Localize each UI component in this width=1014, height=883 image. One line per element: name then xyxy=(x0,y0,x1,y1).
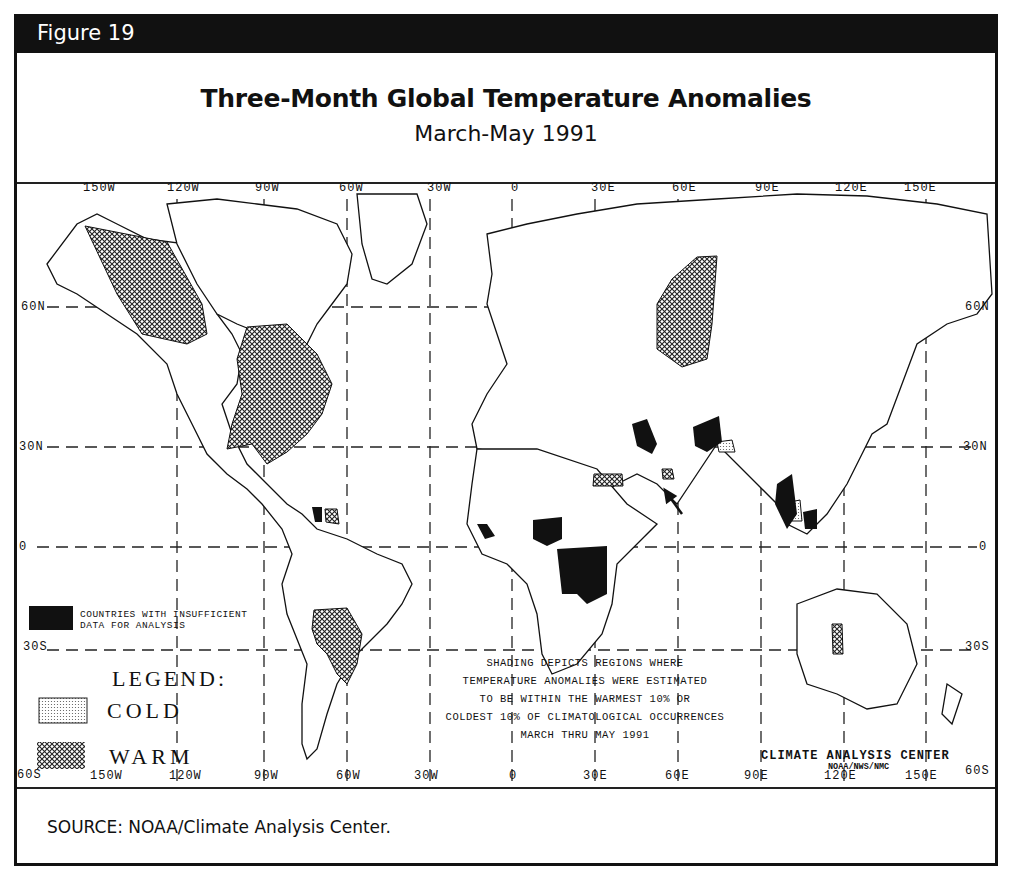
lon-label-top-150w: 150W xyxy=(83,181,116,195)
lon-label-bottom-90e: 90E xyxy=(744,769,769,783)
lon-label-top-60e: 60E xyxy=(672,181,697,195)
lon-label-bottom-60e: 60E xyxy=(665,769,690,783)
figure-title: Three-Month Global Temperature Anomalies xyxy=(17,84,995,113)
lat-label-right-30n: 30N xyxy=(963,440,988,454)
warm-swatch xyxy=(37,742,85,769)
insufficient-data-label: COUNTRIES WITH INSUFFICIENT DATA FOR ANA… xyxy=(80,609,247,631)
lon-label-bottom-30w: 30W xyxy=(414,769,439,783)
lon-label-top-60w: 60W xyxy=(339,181,364,195)
lon-label-top-120e: 120E xyxy=(835,181,868,195)
lon-label-top-0: 0 xyxy=(511,181,519,195)
lat-label-right-60s: 60S xyxy=(965,764,990,778)
cold-swatch xyxy=(39,698,87,723)
lon-label-bottom-60w: 60W xyxy=(336,769,361,783)
lon-label-top-120w: 120W xyxy=(167,181,200,195)
legend-warm-label: WARM xyxy=(109,744,193,770)
world-map: 150W 120W 90W 60W 30W 0 30E 60E 90E 120E… xyxy=(17,184,995,787)
warm-region-venezuela xyxy=(325,509,339,524)
figure-header: Figure 19 xyxy=(17,17,995,53)
warm-region-sudan xyxy=(593,474,623,486)
insufficient-swatch xyxy=(29,606,73,630)
lon-label-bottom-150e: 150E xyxy=(905,769,938,783)
figure-subtitle: March-May 1991 xyxy=(17,121,995,146)
legend-cold-label: COLD xyxy=(107,698,183,724)
map-bottom-rule xyxy=(17,787,995,789)
warm-region-australia xyxy=(832,624,843,654)
lon-label-top-90e: 90E xyxy=(755,181,780,195)
lat-label-left-30n: 30N xyxy=(19,440,44,454)
warm-region-eastern-us xyxy=(227,324,332,464)
lat-label-right-60n: 60N xyxy=(965,300,990,314)
figure-frame: Figure 19 Three-Month Global Temperature… xyxy=(14,14,998,866)
shading-note: SHADING DEPICTS REGIONS WHERE TEMPERATUR… xyxy=(415,654,755,744)
lon-label-bottom-150w: 150W xyxy=(90,769,123,783)
lat-label-left-30s: 30S xyxy=(23,640,48,654)
lon-label-top-150e: 150E xyxy=(904,181,937,195)
lon-label-bottom-30e: 30E xyxy=(583,769,608,783)
lat-label-left-60n: 60N xyxy=(21,300,46,314)
lon-label-top-90w: 90W xyxy=(255,181,280,195)
lon-label-bottom-90w: 90W xyxy=(254,769,279,783)
warm-region-gulf xyxy=(662,469,674,479)
lon-label-bottom-0: 0 xyxy=(509,769,517,783)
lon-label-top-30e: 30E xyxy=(591,181,616,195)
legend-title: LEGEND: xyxy=(112,666,227,692)
credit-sub-label: NOAA/NWS/NMC xyxy=(828,762,889,772)
figure-label: Figure 19 xyxy=(37,21,135,45)
lat-label-left-0: 0 xyxy=(19,540,27,554)
lat-label-right-30s: 30S xyxy=(965,640,990,654)
source-note: SOURCE: NOAA/Climate Analysis Center. xyxy=(47,817,391,837)
lon-label-top-30w: 30W xyxy=(427,181,452,195)
lon-label-bottom-120w: 120W xyxy=(169,769,202,783)
lat-label-right-0: 0 xyxy=(979,540,987,554)
credit-label: CLIMATE ANALYSIS CENTER xyxy=(761,749,950,763)
lat-label-left-60s: 60S xyxy=(17,768,42,782)
